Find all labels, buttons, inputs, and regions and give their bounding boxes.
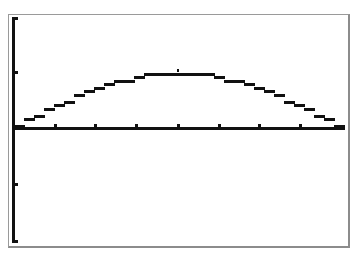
axes [12,17,345,243]
y-axis-bottom-cap [12,240,18,243]
curve-segment [164,73,175,76]
x-axis-tick [177,124,180,128]
curve-segment [224,80,235,83]
curve-segment [274,94,285,97]
curve-segment [24,118,35,121]
curve-segment [284,101,295,104]
curve-segment [254,87,265,90]
y-axis-top-cap [12,17,18,20]
curve-segment [114,80,125,83]
curve-segment [174,73,185,76]
curve-segment [214,76,225,79]
curve-segment [14,125,25,128]
curve-segment [64,101,75,104]
curve-segment [154,73,165,76]
curve-segment [44,108,55,111]
y-axis-tick [14,183,18,186]
x-axis-tick [94,124,97,128]
curve-segment [204,73,215,76]
x-axis-tick [218,124,221,128]
curve-segment [144,73,155,76]
curve-segment [304,108,315,111]
x-axis-tick [299,124,302,128]
curve-segment [84,90,95,93]
curve-segment [234,80,245,83]
curve-segment [314,115,325,118]
curve-segment [134,76,145,79]
curve-segment [334,125,345,128]
x-axis-tick [54,124,57,128]
curve-segment [244,83,255,86]
curve-segment [264,90,275,93]
x-axis-tick [135,124,138,128]
curve-segment [294,104,305,107]
curve-peak-marker [177,69,179,72]
curve-segment [94,87,105,90]
curve-segment [194,73,205,76]
graph-canvas [0,0,359,257]
curve-segment [74,94,85,97]
curve-segment [34,115,45,118]
y-axis-tick [14,71,18,74]
x-axis-tick [258,124,261,128]
curve-segment [124,80,135,83]
curve-segment [54,104,65,107]
curve-segment [324,118,335,121]
curve-segment [184,73,195,76]
curve-segment [104,83,115,86]
function-curve [14,69,345,128]
